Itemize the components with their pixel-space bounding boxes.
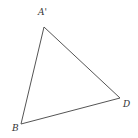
- vertex-label-a-prime: A': [37, 7, 47, 17]
- triangle-a-prime-d-b: [21, 27, 120, 124]
- triangle-diagram: A' D B: [0, 0, 138, 138]
- vertex-label-d: D: [122, 99, 130, 109]
- vertex-label-b: B: [11, 123, 19, 133]
